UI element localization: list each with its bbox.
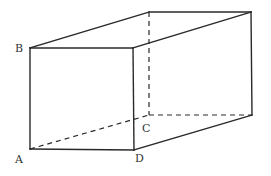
label-B: B (15, 42, 23, 55)
edge-A-D (30, 149, 134, 150)
edge-front-top-right-back-top-right (133, 12, 251, 48)
edge-B-back-top-left (30, 12, 149, 48)
edge-D-back-bottom-right (134, 115, 252, 150)
label-A: A (14, 153, 24, 166)
hidden-edges (30, 12, 252, 149)
front-face (30, 48, 134, 150)
cuboid-diagram: B A C D (0, 0, 271, 176)
edge-back-right (251, 12, 252, 115)
edge-front-top-right-D (133, 48, 134, 150)
visible-receding-edges (30, 12, 252, 150)
hidden-edge-A-C (30, 115, 149, 149)
label-C: C (142, 122, 150, 135)
label-D: D (135, 152, 144, 165)
